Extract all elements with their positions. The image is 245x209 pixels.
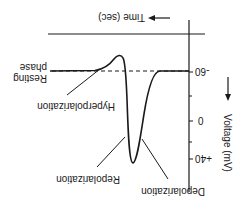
right-arrow-icon — [148, 15, 170, 21]
tick-label-plus40: +40 — [195, 153, 212, 164]
leader-repolarization — [97, 137, 125, 167]
tick-label-zero: 0 — [198, 115, 204, 126]
up-arrow-icon — [225, 77, 231, 101]
label-hyperpolarization: Hyperpolarization — [37, 101, 115, 112]
leader-hyperpolarization — [67, 69, 100, 95]
leader-depolarization — [142, 139, 168, 179]
label-depolarization: Depolarization — [141, 186, 205, 197]
action-potential-diagram: -60 0 +40 Voltage (mV) Time (sec) Restin… — [0, 0, 245, 209]
label-resting-line2: phase — [19, 62, 47, 73]
label-repolarization: Repolarization — [56, 174, 120, 185]
x-axis-label: Time (sec) — [98, 12, 145, 23]
tick-label-minus60: -60 — [195, 66, 210, 77]
label-resting-line1: Resting — [13, 73, 47, 84]
y-axis-label: Voltage (mV) — [222, 114, 233, 172]
